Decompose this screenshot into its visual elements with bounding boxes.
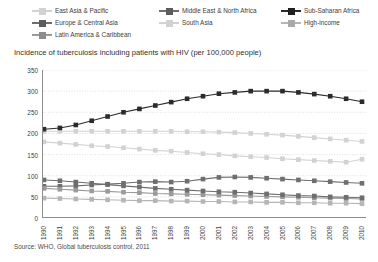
series-point-marker — [248, 131, 253, 136]
series-point-marker — [89, 143, 94, 148]
chart-page: East Asia & Pacific Middle East & North … — [0, 0, 378, 262]
series-point-marker — [312, 200, 317, 205]
legend-marker-icon — [32, 19, 52, 27]
series-point-marker — [217, 130, 222, 135]
series-point-marker — [233, 130, 238, 135]
legend-label: Middle East & North Africa — [182, 7, 257, 15]
series-point-marker — [280, 157, 285, 162]
series-point-marker — [137, 198, 142, 203]
series-point-marker — [58, 187, 63, 192]
series-point-marker — [201, 94, 206, 99]
series-point-marker — [360, 195, 365, 200]
series-point-marker — [344, 160, 349, 165]
series-point-marker — [74, 123, 79, 128]
series-point-marker — [233, 200, 238, 205]
series-point-marker — [43, 178, 46, 183]
series-point-marker — [296, 178, 301, 183]
series-point-marker — [43, 196, 46, 201]
series-point-marker — [89, 129, 94, 134]
series-point-marker — [89, 181, 94, 186]
series-point-marker — [280, 177, 285, 182]
series-point-marker — [217, 199, 222, 204]
x-axis-tick-label: 2000 — [199, 226, 206, 240]
series-point-marker — [233, 175, 238, 180]
series-point-marker — [280, 133, 285, 138]
series-point-marker — [137, 185, 142, 190]
x-axis-tick-label: 2009 — [342, 226, 349, 240]
series-point-marker — [217, 91, 222, 96]
x-axis-labels: 1990199119921993199419951996199719981999… — [42, 220, 366, 262]
series-point-marker — [169, 100, 174, 105]
series-point-marker — [89, 118, 94, 123]
series-point-marker — [328, 201, 333, 206]
series-point-marker — [153, 198, 158, 203]
series-point-marker — [169, 129, 174, 134]
series-point-marker — [137, 107, 142, 112]
series-point-marker — [169, 192, 174, 197]
chart-svg — [43, 70, 367, 218]
series-point-marker — [328, 179, 333, 184]
legend-marker-icon — [32, 7, 52, 15]
series-point-marker — [153, 148, 158, 153]
series-point-marker — [344, 138, 349, 143]
series-point-marker — [312, 158, 317, 163]
series-point-marker — [43, 186, 46, 191]
x-axis-tick-label: 1992 — [72, 226, 79, 240]
x-axis-tick-label: 2008 — [326, 226, 333, 240]
series-point-marker — [169, 199, 174, 204]
series-point-marker — [328, 159, 333, 164]
series-point-marker — [328, 195, 333, 200]
plot-area — [42, 70, 366, 218]
series-point-marker — [74, 180, 79, 185]
series-point-marker — [280, 192, 285, 197]
series-point-marker — [248, 191, 253, 196]
series-point-marker — [185, 199, 190, 204]
x-axis-tick-label: 1991 — [56, 226, 63, 240]
series-point-marker — [121, 190, 126, 195]
series-point-marker — [153, 103, 158, 108]
series-point-marker — [328, 94, 333, 99]
y-axis-tick-label: 0 — [34, 215, 38, 222]
series-point-marker — [89, 189, 94, 194]
chart-title: Incidence of tuberculosis including pati… — [14, 48, 261, 57]
legend-label: Latin America & Caribbean — [55, 31, 131, 39]
series-point-marker — [217, 175, 222, 180]
legend-label: Europe & Central Asia — [55, 19, 118, 27]
legend-item-sub-saharan-africa: Sub-Saharan Africa — [281, 7, 359, 15]
legend-label: East Asia & Pacific — [55, 7, 108, 15]
series-point-marker — [74, 142, 79, 147]
x-axis-tick-label: 1994 — [104, 226, 111, 240]
series-point-marker — [344, 195, 349, 200]
series-point-marker — [312, 135, 317, 140]
x-axis-tick-label: 2005 — [279, 226, 286, 240]
series-point-marker — [185, 188, 190, 193]
series-point-marker — [105, 129, 110, 134]
series-point-marker — [185, 150, 190, 155]
series-point-marker — [43, 140, 46, 145]
y-axis-tick-label: 150 — [27, 151, 38, 158]
series-point-marker — [296, 134, 301, 139]
series-point-marker — [105, 189, 110, 194]
series-point-marker — [296, 200, 301, 205]
series-point-marker — [344, 180, 349, 185]
series-point-marker — [360, 157, 365, 162]
series-point-marker — [74, 188, 79, 193]
y-axis-tick-label: 200 — [27, 130, 38, 137]
series-point-marker — [58, 196, 63, 201]
series-point-marker — [169, 149, 174, 154]
series-point-marker — [264, 192, 269, 197]
series-point-marker — [312, 178, 317, 183]
legend-marker-icon — [281, 7, 301, 15]
series-point-marker — [169, 187, 174, 192]
series-point-marker — [153, 186, 158, 191]
series-point-marker — [121, 110, 126, 115]
series-point-marker — [137, 190, 142, 195]
series-point-marker — [169, 180, 174, 185]
series-point-marker — [217, 152, 222, 157]
series-point-marker — [344, 96, 349, 101]
series-point-marker — [153, 179, 158, 184]
chart-source-note: Source: WHO, Global tuberculosis control… — [14, 243, 150, 250]
series-point-marker — [137, 180, 142, 185]
series-point-marker — [105, 198, 110, 203]
series-point-marker — [312, 194, 317, 199]
